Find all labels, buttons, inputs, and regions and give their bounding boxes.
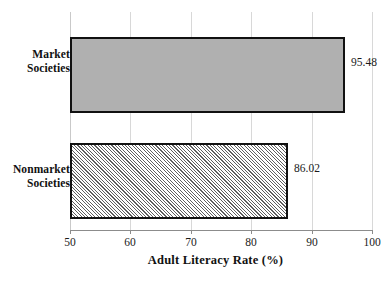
y-axis-label-market-societies-line1: Market	[0, 48, 70, 62]
x-axis-tick-60	[130, 230, 131, 234]
x-axis-tick-label-90: 90	[292, 236, 332, 248]
x-axis-line	[70, 230, 373, 231]
x-axis-tick-label-100: 100	[352, 236, 391, 248]
x-axis-tick-90	[312, 230, 313, 234]
bar-chart: Market Societies Nonmarket Societies 95.…	[0, 0, 391, 281]
y-axis-label-market-societies-line2: Societies	[0, 62, 70, 76]
y-axis-label-market-societies: Market Societies	[0, 48, 70, 75]
x-axis-tick-70	[191, 230, 192, 234]
bar-market-societies[interactable]	[70, 37, 345, 113]
y-axis-label-nonmarket-societies-line2: Societies	[0, 177, 70, 191]
x-axis-tick-label-60: 60	[110, 236, 150, 248]
x-axis-tick-50	[70, 230, 71, 234]
x-axis-tick-100	[372, 230, 373, 234]
gridline-100	[372, 12, 373, 230]
x-axis-tick-80	[251, 230, 252, 234]
y-axis-label-nonmarket-societies-line1: Nonmarket	[0, 163, 70, 177]
x-axis-tick-label-50: 50	[50, 236, 90, 248]
value-label-market-societies: 95.48	[351, 56, 377, 68]
x-axis-tick-label-80: 80	[231, 236, 271, 248]
y-axis-label-nonmarket-societies: Nonmarket Societies	[0, 163, 70, 190]
x-axis-tick-label-70: 70	[171, 236, 211, 248]
bar-nonmarket-societies[interactable]	[70, 143, 288, 219]
value-label-nonmarket-societies: 86.02	[294, 162, 320, 174]
plot-area	[70, 12, 372, 230]
x-axis-title: Adult Literacy Rate (%)	[0, 253, 391, 268]
